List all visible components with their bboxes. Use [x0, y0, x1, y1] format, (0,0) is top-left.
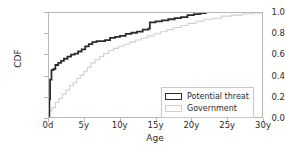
- cdf-chart-figure: 0.00.20.40.60.81.0 0d5y10y15y20y25y30y C…: [0, 0, 285, 152]
- legend-swatch-government: [165, 105, 182, 112]
- x-tick-label: 30y: [243, 121, 283, 130]
- x-tick-label: 0d: [28, 121, 68, 130]
- legend-label-potential-threat: Potential threat: [187, 93, 249, 101]
- legend-label-government: Government: [187, 105, 237, 113]
- x-axis-label: Age: [95, 134, 215, 143]
- x-tick-label: 15y: [136, 121, 176, 130]
- legend-item-government: Government: [165, 103, 249, 114]
- x-tick-label: 10y: [100, 121, 140, 130]
- x-tick-label: 5y: [64, 121, 104, 130]
- x-tick-label: 25y: [207, 121, 247, 130]
- chart-legend: Potential threat Government: [161, 87, 254, 118]
- x-tick-label: 20y: [171, 121, 211, 130]
- y-axis-label: CDF: [14, 29, 23, 89]
- legend-swatch-potential-threat: [165, 93, 182, 100]
- legend-item-potential-threat: Potential threat: [165, 91, 249, 102]
